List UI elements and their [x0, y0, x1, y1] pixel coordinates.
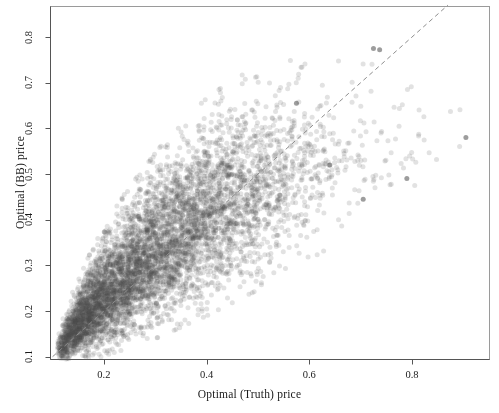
y-tick-label: 0.1	[23, 342, 36, 372]
y-tick-label: 0.7	[23, 68, 36, 98]
y-tick-label: 0.5	[23, 159, 36, 189]
y-tick-label: 0.2	[23, 296, 36, 326]
x-tick-label: 0.2	[84, 369, 124, 380]
y-tick-label: 0.8	[23, 22, 36, 52]
x-tick-label: 0.6	[289, 369, 329, 380]
y-tick-label: 0.3	[23, 250, 36, 280]
scatter-plot-figure: Optimal (BB) price Optimal (Truth) price…	[0, 0, 499, 413]
x-axis-title: Optimal (Truth) price	[0, 388, 499, 400]
y-tick-label: 0.4	[23, 205, 36, 235]
x-tick-label: 0.4	[187, 369, 227, 380]
x-tick-label: 0.8	[392, 369, 432, 380]
scatter-plot-canvas	[0, 0, 499, 413]
y-tick-label: 0.6	[23, 113, 36, 143]
